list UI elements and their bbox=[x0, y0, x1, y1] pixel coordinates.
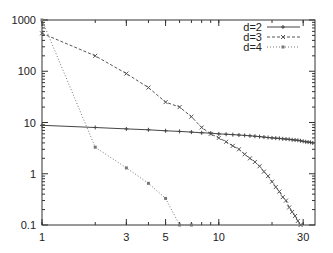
x-tick-label: 5 bbox=[163, 231, 169, 243]
series-d=2 bbox=[40, 123, 315, 145]
legend-label: d=4 bbox=[243, 41, 262, 53]
chart: 135103010001001010.1 d=2d=3d=4 bbox=[0, 0, 333, 253]
plot-series bbox=[40, 19, 315, 228]
plot-axes: 135103010001001010.1 bbox=[12, 14, 315, 243]
series-d=4 bbox=[41, 19, 193, 227]
x-tick-label: 10 bbox=[213, 231, 225, 243]
x-tick-label: 1 bbox=[39, 231, 45, 243]
legend: d=2d=3d=4 bbox=[243, 21, 300, 53]
y-tick-label: 0.1 bbox=[21, 219, 36, 231]
x-tick-label: 3 bbox=[123, 231, 129, 243]
series-d=3 bbox=[40, 31, 303, 227]
y-tick-label: 1000 bbox=[12, 14, 36, 26]
y-tick-label: 10 bbox=[24, 117, 36, 129]
y-tick-label: 1 bbox=[30, 168, 36, 180]
x-tick-label: 30 bbox=[297, 231, 309, 243]
y-tick-label: 100 bbox=[18, 65, 36, 77]
